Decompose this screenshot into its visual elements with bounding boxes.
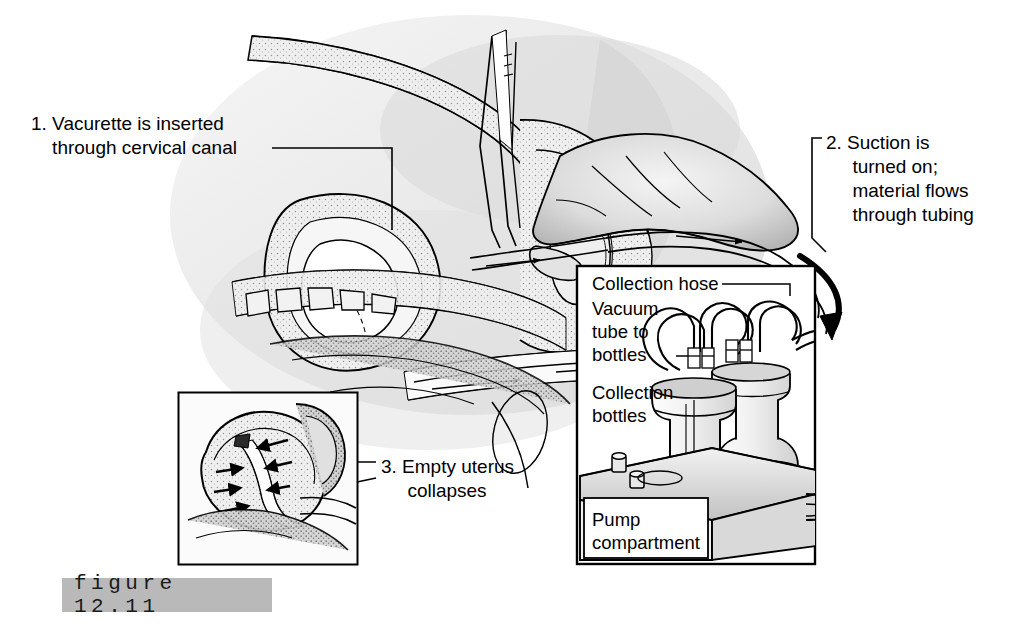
label-pump-compartment: Pump compartment xyxy=(592,508,700,554)
leader-lines xyxy=(272,138,826,486)
figure-container: 1. Vacurette is inserted through cervica… xyxy=(0,0,1016,634)
abdominal-wall xyxy=(248,36,560,212)
hand xyxy=(470,134,798,280)
body-shading xyxy=(170,15,770,450)
instrument-shafts xyxy=(480,30,520,248)
posterior-structures xyxy=(232,270,570,414)
bladder xyxy=(264,194,440,370)
inset-collapsed-uterus xyxy=(179,393,357,564)
label-collection-hose: Collection hose xyxy=(592,272,719,295)
flow-arrow-canal xyxy=(432,380,520,389)
leader-callout-1 xyxy=(272,148,392,230)
cart-fittings xyxy=(612,453,682,488)
collection-bottle-back xyxy=(712,363,798,502)
leader-collection-bottles xyxy=(668,396,706,404)
tube-collars xyxy=(688,340,752,368)
callout-step-2: 2. Suction is turned on; material flows … xyxy=(826,131,974,227)
flow-arrow-handle xyxy=(486,260,540,266)
flow-arrow-hose xyxy=(676,236,742,242)
leader-collection-hose xyxy=(722,284,790,296)
callout-step-3: 3. Empty uterus collapses xyxy=(381,455,514,503)
suction-flow-arrow xyxy=(800,256,839,328)
label-vacuum-tube-to-bottles: Vacuum tube to bottles xyxy=(592,297,659,366)
illustration-artwork xyxy=(0,0,1016,634)
callout-step-1: 1. Vacurette is inserted through cervica… xyxy=(31,112,237,160)
label-collection-bottles: Collection bottles xyxy=(592,381,673,427)
leader-callout-3b xyxy=(338,478,376,486)
vacuum-tubes xyxy=(643,302,824,370)
flow-arrow-canal xyxy=(556,366,640,372)
collapse-arrows xyxy=(214,440,292,512)
figure-caption: figure 12.11 xyxy=(62,578,272,612)
leader-callout-2 xyxy=(812,138,826,252)
